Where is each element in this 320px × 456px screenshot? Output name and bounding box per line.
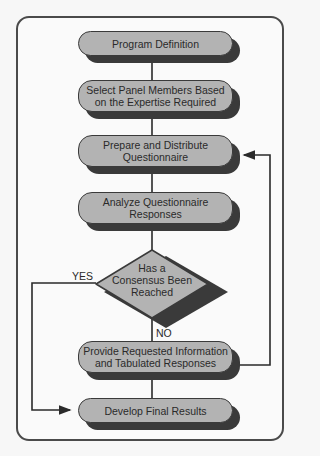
- node-consensus-decision: Has a Consensus Been Reached: [110, 262, 194, 298]
- node-label: Program Definition: [78, 31, 233, 56]
- node-analyze-responses: Analyze Questionnaire Responses: [78, 192, 233, 224]
- node-label-line: Prepare and Distribute: [103, 139, 208, 151]
- node-label-line: Reached: [110, 286, 194, 298]
- no-label: NO: [156, 327, 172, 339]
- node-prepare-distribute: Prepare and Distribute Questionnaire: [78, 135, 233, 167]
- node-label-line: Has a: [110, 262, 194, 274]
- node-label: Develop Final Results: [78, 398, 233, 423]
- node-label-line: Responses: [103, 208, 209, 220]
- node-label-line: Analyze Questionnaire: [103, 196, 209, 208]
- node-label-line: and Tabulated Responses: [83, 357, 228, 369]
- node-label-line: Provide Requested Information: [83, 345, 228, 357]
- node-label-line: Consensus Been: [110, 274, 194, 286]
- yes-label: YES: [72, 270, 93, 282]
- node-develop-results: Develop Final Results: [78, 398, 233, 423]
- node-program-definition: Program Definition: [78, 31, 233, 56]
- node-label-line: on the Expertise Required: [86, 96, 224, 108]
- node-label-line: Select Panel Members Based: [86, 84, 224, 96]
- node-label-line: Questionnaire: [103, 151, 208, 163]
- node-select-panel: Select Panel Members Based on the Expert…: [78, 80, 233, 112]
- node-provide-info: Provide Requested Information and Tabula…: [78, 341, 233, 373]
